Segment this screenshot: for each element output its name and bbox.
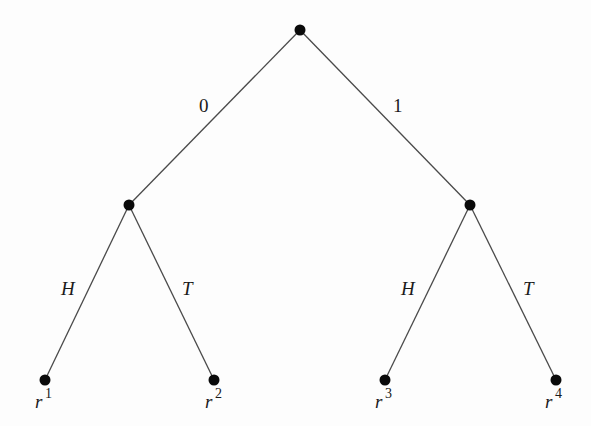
svg-text:2: 2 [215, 386, 222, 401]
edge-label-t-right: T [523, 278, 535, 299]
leaf-label-r2: r 2 [205, 386, 222, 412]
edge-label-t-left: T [182, 278, 194, 299]
node-leaf1 [40, 375, 51, 386]
svg-text:r: r [35, 391, 43, 412]
edge-label-0: 0 [199, 95, 209, 116]
edge-label-h-left: H [60, 278, 76, 299]
svg-text:4: 4 [555, 386, 562, 401]
leaf-label-r3: r 3 [375, 386, 392, 412]
node-leaf3 [380, 375, 391, 386]
tree-svg: 0 1 H T H T r 1 r 2 r 3 r 4 [0, 0, 591, 426]
svg-text:r: r [205, 391, 213, 412]
edge-left-leaf2 [129, 205, 214, 380]
svg-text:r: r [375, 391, 383, 412]
edge-left-leaf1 [45, 205, 129, 380]
svg-text:1: 1 [45, 386, 52, 401]
node-leaf4 [551, 375, 562, 386]
node-left [124, 200, 135, 211]
svg-text:r: r [545, 391, 553, 412]
leaf-label-r1: r 1 [35, 386, 52, 412]
edge-label-1: 1 [393, 95, 403, 116]
leaf-label-r4: r 4 [545, 386, 562, 412]
edge-right-leaf4 [470, 205, 556, 380]
edge-label-h-right: H [400, 278, 416, 299]
tree-diagram: 0 1 H T H T r 1 r 2 r 3 r 4 [0, 0, 591, 426]
node-root [295, 25, 306, 36]
node-right [465, 200, 476, 211]
svg-text:3: 3 [385, 386, 392, 401]
edge-root-left [129, 30, 300, 205]
edge-root-right [300, 30, 470, 205]
edge-right-leaf3 [385, 205, 470, 380]
node-leaf2 [209, 375, 220, 386]
